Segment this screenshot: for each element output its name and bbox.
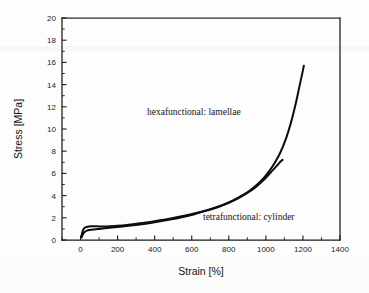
plot-axes [62, 18, 340, 240]
y-tick-label: 10 [47, 125, 56, 134]
x-axis-tick-labels: 0200400600800100012001400 [78, 245, 349, 254]
stress-strain-plot: 02468101214161820 0200400600800100012001… [0, 0, 369, 293]
y-tick-label: 6 [52, 169, 57, 178]
y-tick-label: 2 [52, 214, 57, 223]
y-tick-label: 8 [52, 147, 57, 156]
x-axis-ticks [62, 236, 340, 241]
y-axis-tick-labels: 02468101214161820 [47, 14, 56, 245]
y-tick-label: 4 [52, 192, 57, 201]
chart-figure: 02468101214161820 0200400600800100012001… [0, 0, 369, 293]
annotation-tetrafunctional-cylinder: tetrafunctional: cylinder [203, 212, 295, 222]
y-axis-title: Stress [MPa] [12, 99, 24, 159]
y-tick-label: 18 [47, 36, 56, 45]
y-tick-label: 14 [47, 81, 56, 90]
x-tick-label: 400 [148, 245, 162, 254]
x-tick-label: 1400 [331, 245, 349, 254]
y-tick-label: 20 [47, 14, 56, 23]
x-tick-label: 1200 [294, 245, 312, 254]
x-tick-label: 800 [222, 245, 236, 254]
x-tick-label: 1000 [257, 245, 275, 254]
annotation-hexafunctional-lamellae: hexafunctional: lamellae [147, 107, 241, 117]
y-tick-label: 12 [47, 103, 56, 112]
x-tick-label: 0 [78, 245, 83, 254]
y-tick-label: 0 [52, 236, 57, 245]
y-tick-label: 16 [47, 58, 56, 67]
y-axis-ticks [62, 18, 67, 240]
x-tick-label: 200 [111, 245, 125, 254]
x-tick-label: 600 [185, 245, 199, 254]
x-axis-title: Strain [%] [178, 265, 224, 277]
